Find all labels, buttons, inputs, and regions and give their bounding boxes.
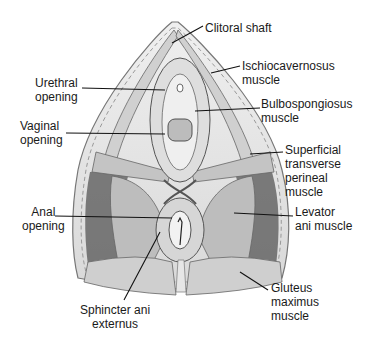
label-vaginal-opening: Vaginal opening — [20, 119, 63, 147]
label-clitoral-shaft: Clitoral shaft — [205, 21, 272, 35]
label-sphincter-ani-externus: Sphincter ani externus — [80, 303, 150, 331]
label-gluteus-maximus-muscle: Gluteus maximus muscle — [271, 281, 319, 323]
anatomy-diagram: Clitoral shaft Ischiocavernosus muscle U… — [0, 0, 368, 342]
label-levator-ani-muscle: Levator ani muscle — [295, 205, 352, 233]
label-anal-opening: Anal opening — [22, 205, 65, 233]
label-ischiocavernosus-muscle: Ischiocavernosus muscle — [242, 59, 335, 87]
label-urethral-opening: Urethral opening — [35, 76, 78, 104]
label-bulbospongiosus-muscle: Bulbospongiosus muscle — [261, 97, 352, 125]
label-superficial-transverse-perineal-muscle: Superficial transverse perineal muscle — [285, 143, 341, 199]
